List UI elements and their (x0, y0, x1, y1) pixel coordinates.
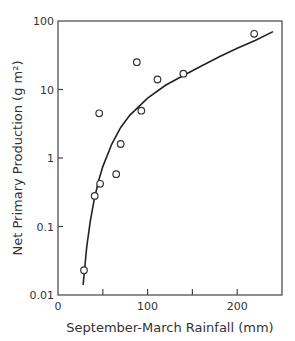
y-axis-label: Net Primary Production (g m²) (10, 60, 25, 255)
data-point (113, 171, 120, 178)
x-axis-ticks: 0100200 (55, 289, 248, 313)
data-point (154, 76, 161, 83)
data-point (117, 141, 124, 148)
data-point (180, 70, 187, 77)
x-axis-label: September-March Rainfall (mm) (66, 320, 273, 335)
data-point (251, 31, 258, 38)
y-tick-label: 0.01 (30, 289, 55, 302)
plot-frame (58, 21, 282, 295)
x-tick-label: 100 (137, 300, 158, 313)
data-point (91, 193, 98, 200)
y-tick-label: 100 (33, 15, 54, 28)
data-point (97, 181, 104, 188)
data-point (96, 110, 103, 117)
x-tick-label: 0 (55, 300, 62, 313)
y-tick-label: 1 (47, 152, 54, 165)
data-point (134, 59, 141, 66)
y-tick-label: 0.1 (37, 221, 55, 234)
x-tick-label: 200 (227, 300, 248, 313)
data-points (81, 31, 258, 274)
data-point (81, 267, 88, 274)
chart: 0100200 0.010.1110100 September-March Ra… (0, 0, 295, 341)
y-tick-label: 10 (40, 84, 54, 97)
data-point (138, 107, 145, 114)
fitted-curve (83, 32, 273, 285)
